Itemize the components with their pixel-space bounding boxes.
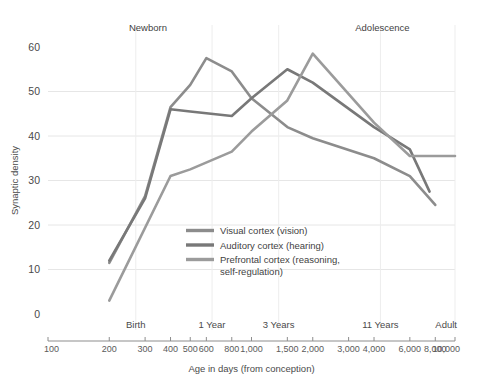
x-tick-label: 4,000 bbox=[363, 344, 386, 354]
legend-label-1: Visual cortex (vision) bbox=[220, 225, 307, 236]
x-tick-label: 400 bbox=[163, 344, 178, 354]
chart-canvas: 0102030405060NewbornAdolescenceBirth1 Ye… bbox=[0, 0, 499, 385]
x-tick-label: 10,000 bbox=[432, 344, 460, 354]
x-tick-label: 200 bbox=[102, 344, 117, 354]
stage-label-adult: Adult bbox=[435, 319, 457, 330]
legend-label-2: Auditory cortex (hearing) bbox=[220, 240, 324, 251]
y-tick-label: 40 bbox=[28, 130, 40, 142]
x-axis-title: Age in days (from conception) bbox=[188, 363, 314, 374]
x-tick-label: 1,000 bbox=[240, 344, 263, 354]
y-axis-title: Synaptic density bbox=[9, 146, 20, 215]
y-tick-label: 0 bbox=[34, 308, 40, 320]
x-tick-label: 300 bbox=[138, 344, 153, 354]
legend-label-3: Prefrontal cortex (reasoning, bbox=[220, 254, 340, 265]
y-tick-label: 30 bbox=[28, 174, 40, 186]
y-tick-label: 50 bbox=[28, 85, 40, 97]
x-tick-label: 6,000 bbox=[399, 344, 422, 354]
stage-label-birth: Birth bbox=[126, 319, 146, 330]
stage-label-3-years: 3 Years bbox=[263, 319, 295, 330]
annotation-label: Newborn bbox=[129, 22, 167, 33]
x-tick-label: 3,000 bbox=[337, 344, 360, 354]
synaptic-density-chart: 0102030405060NewbornAdolescenceBirth1 Ye… bbox=[0, 0, 499, 385]
x-tick-label: 500 bbox=[183, 344, 198, 354]
y-tick-label: 60 bbox=[28, 41, 40, 53]
x-tick-label: 600 bbox=[199, 344, 214, 354]
y-tick-label: 10 bbox=[28, 263, 40, 275]
stage-label-11-years: 11 Years bbox=[362, 319, 399, 330]
y-tick-label: 20 bbox=[28, 219, 40, 231]
x-tick-label: 800 bbox=[224, 344, 239, 354]
stage-label-1-year: 1 Year bbox=[199, 319, 226, 330]
x-tick-label: 1,500 bbox=[276, 344, 299, 354]
legend-label-4: self-regulation) bbox=[220, 266, 283, 277]
annotation-label: Adolescence bbox=[355, 22, 409, 33]
x-tick-label: 100 bbox=[44, 344, 59, 354]
x-tick-label: 2,000 bbox=[301, 344, 324, 354]
